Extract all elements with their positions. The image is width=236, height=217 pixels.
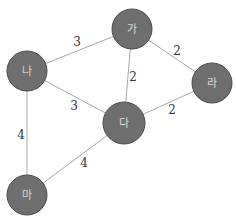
node-da: 다 xyxy=(103,102,145,144)
edge-weight-label: 2 xyxy=(168,103,176,117)
edge-weights-group: 3223244 xyxy=(17,35,181,170)
edge-weight-label: 3 xyxy=(73,35,81,49)
weighted-graph-diagram: 3223244 가나라다마 xyxy=(0,0,236,217)
edge-weight-label: 3 xyxy=(70,99,78,113)
edge-weight-label: 2 xyxy=(173,44,181,58)
node-label: 나 xyxy=(22,65,32,78)
node-ga: 가 xyxy=(112,9,152,49)
edge-weight-label: 4 xyxy=(17,128,25,142)
node-ra: 라 xyxy=(192,63,232,103)
node-na: 나 xyxy=(7,51,47,91)
edge-weight-label: 2 xyxy=(129,70,137,84)
node-label: 라 xyxy=(207,77,217,90)
node-ma: 마 xyxy=(7,175,47,215)
node-label: 가 xyxy=(127,23,137,36)
edge-weight-label: 4 xyxy=(80,156,88,170)
nodes-group: 가나라다마 xyxy=(7,9,232,215)
node-label: 마 xyxy=(22,189,32,202)
node-label: 다 xyxy=(119,117,129,130)
